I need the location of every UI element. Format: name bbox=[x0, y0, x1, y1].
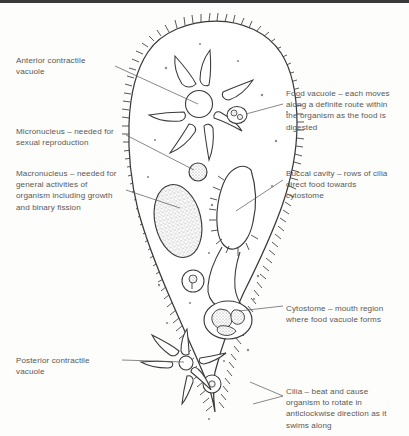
label-micronucleus: Micronucleus – needed for sexual reprodu… bbox=[16, 126, 144, 148]
label-cilia: Cilia – beat and cause organism to rotat… bbox=[286, 386, 404, 431]
food-vacuole-upper-right bbox=[227, 107, 247, 124]
diagram-page: Anterior contractile vacuole Micronucleu… bbox=[0, 0, 409, 436]
label-anterior-contractile-vacuole: Anterior contractile vacuole bbox=[16, 55, 136, 77]
leader-cilia-b bbox=[253, 396, 283, 404]
label-cytostome: Cytostome – mouth region where food vacu… bbox=[286, 303, 404, 325]
food-vacuole-mid bbox=[182, 270, 204, 292]
leader-cilia-a bbox=[250, 382, 283, 396]
label-macronucleus: Macronucleus – needed for general activi… bbox=[16, 168, 148, 213]
micronucleus bbox=[189, 163, 207, 181]
label-buccal-cavity: Buccal cavity – rows of cilia direct foo… bbox=[286, 168, 404, 202]
posterior-vacuole-center bbox=[179, 356, 193, 370]
anterior-vacuole-center bbox=[186, 91, 213, 118]
label-posterior-contractile-vacuole: Posterior contractile vacuole bbox=[16, 355, 136, 377]
label-food-vacuole: Food vacuole – each moves along a defini… bbox=[286, 88, 404, 133]
cytostome bbox=[204, 301, 252, 339]
